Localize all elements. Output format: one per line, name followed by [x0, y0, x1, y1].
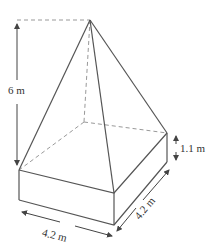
box-height-label: 1.1 m — [180, 142, 205, 154]
pyramid-cuboid-diagram — [0, 0, 214, 251]
pyramid-edges — [19, 20, 167, 193]
hidden-edges — [17, 20, 167, 170]
total-height-label: 6 m — [8, 84, 25, 96]
